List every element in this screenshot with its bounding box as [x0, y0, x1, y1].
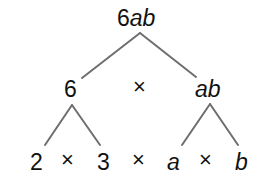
- times-operator-1: ×: [61, 149, 74, 171]
- node-6: 6: [64, 78, 77, 101]
- branch-root-left: [82, 33, 140, 78]
- root-coefficient: 6: [117, 5, 130, 31]
- node-ab: ab: [195, 78, 221, 101]
- branch-root-right: [140, 33, 196, 77]
- root-node: 6ab: [117, 7, 155, 30]
- leaf-2: 2: [30, 151, 43, 174]
- factor-tree-diagram: 6ab 6 × ab 2 × 3 × a × b: [0, 0, 255, 187]
- root-variables: ab: [130, 5, 156, 31]
- times-operator-level1: ×: [133, 76, 146, 98]
- branch-ab-right: [210, 104, 238, 145]
- leaf-3: 3: [97, 151, 110, 174]
- leaf-a: a: [167, 151, 180, 174]
- branch-6-left: [45, 105, 72, 145]
- times-operator-2: ×: [132, 149, 145, 171]
- branch-6-right: [72, 105, 100, 145]
- branch-ab-left: [182, 104, 210, 145]
- times-operator-3: ×: [199, 149, 212, 171]
- leaf-b: b: [235, 151, 248, 174]
